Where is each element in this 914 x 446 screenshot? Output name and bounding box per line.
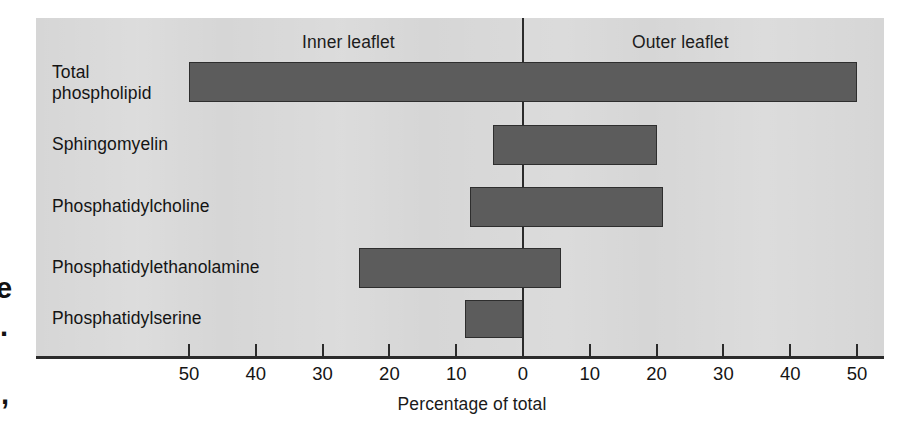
x-axis-tick-label: 20 [369, 363, 409, 385]
x-axis-tick [322, 344, 324, 356]
x-axis-tick-label: 10 [436, 363, 476, 385]
category-label: Sphingomyelin [52, 134, 168, 155]
x-axis-tick-label: 50 [169, 363, 209, 385]
x-axis-tick [255, 344, 257, 356]
x-axis-title-text: Percentage of total [398, 394, 547, 414]
x-axis-tick-label: 20 [637, 363, 677, 385]
x-axis-tick [789, 344, 791, 356]
x-axis-tick-label: 30 [703, 363, 743, 385]
x-axis-line [36, 356, 884, 359]
x-axis-tick-label: 40 [770, 363, 810, 385]
category-label: Phosphatidylcholine [52, 196, 210, 217]
category-label: Phosphatidylserine [52, 308, 202, 329]
x-axis-tick [856, 344, 858, 356]
outer-leaflet-heading: Outer leaflet [632, 32, 729, 53]
x-axis-tick-label: 50 [837, 363, 877, 385]
category-label: Total phospholipid [52, 62, 151, 104]
x-axis-tick [522, 344, 524, 356]
x-axis-tick-label: 30 [303, 363, 343, 385]
x-axis-tick [656, 344, 658, 356]
inner-leaflet-heading: Inner leaflet [302, 32, 395, 53]
bar [493, 125, 657, 165]
x-axis-title: Percentage of total [0, 394, 914, 415]
category-label: Phosphatidylethanolamine [52, 257, 260, 278]
x-axis-tick [388, 344, 390, 356]
x-axis-tick-label: 10 [570, 363, 610, 385]
bar [359, 248, 561, 288]
x-axis-tick-label: 40 [236, 363, 276, 385]
x-axis-tick-label: 0 [503, 363, 543, 385]
x-axis-tick [455, 344, 457, 356]
bidirectional-bar-chart: Inner leaflet Outer leaflet Total phosph… [0, 0, 914, 446]
x-axis-tick [722, 344, 724, 356]
bar [465, 300, 523, 338]
x-axis-tick [589, 344, 591, 356]
bar [470, 187, 664, 227]
x-axis-tick [188, 344, 190, 356]
bar [189, 62, 857, 102]
